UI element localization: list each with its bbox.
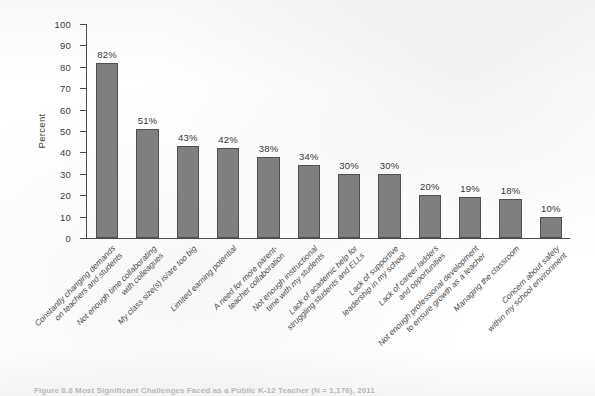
bar-value-label: 38% [259, 143, 279, 154]
y-axis-tick: 50 [80, 131, 86, 132]
y-axis-tick-label: 50 [60, 126, 71, 137]
bar-group[interactable]: 82% [96, 24, 118, 238]
y-axis-tick: 80 [80, 67, 86, 68]
y-axis-tick-label: 30 [60, 168, 71, 179]
bar[interactable] [96, 63, 118, 238]
category-label-line: Concern about safety [479, 244, 562, 327]
bar[interactable] [378, 174, 400, 238]
bar-group[interactable]: 19% [459, 24, 481, 238]
bar[interactable] [499, 199, 521, 238]
bar-group[interactable]: 18% [499, 24, 521, 238]
bar[interactable] [459, 197, 481, 238]
bar-value-label: 34% [299, 151, 319, 162]
bar-group[interactable]: 34% [298, 24, 320, 238]
bar-group[interactable]: 20% [419, 24, 441, 238]
bar-value-label: 30% [339, 160, 359, 171]
bar-value-label: 51% [138, 115, 158, 126]
y-axis-line [86, 24, 87, 238]
bar[interactable] [217, 148, 239, 238]
y-axis-tick-label: 60 [60, 104, 71, 115]
y-axis-tick-label: 20 [60, 190, 71, 201]
y-axis-tick: 30 [80, 174, 86, 175]
bar-value-label: 82% [97, 49, 117, 60]
bar-value-label: 43% [178, 132, 198, 143]
bar-group[interactable]: 38% [257, 24, 279, 238]
y-axis-tick-label: 40 [60, 147, 71, 158]
y-axis-title: Percent [36, 114, 47, 149]
bar-value-label: 30% [380, 160, 400, 171]
y-axis-tick: 0 [80, 238, 86, 239]
plot-area: Percent 0102030405060708090100 82%51%43%… [86, 24, 570, 238]
y-axis-tick-label: 80 [60, 61, 71, 72]
bar[interactable] [338, 174, 360, 238]
bar[interactable] [419, 195, 441, 238]
bar-group[interactable]: 10% [540, 24, 562, 238]
y-axis-tick-label: 0 [66, 233, 71, 244]
bar-group[interactable]: 51% [136, 24, 158, 238]
bar-value-label: 18% [501, 185, 521, 196]
y-axis-tick: 40 [80, 152, 86, 153]
y-axis-tick: 90 [80, 45, 86, 46]
figure-caption: Figure 8.8 Most Significant Challenges F… [34, 386, 375, 395]
y-axis-tick: 20 [80, 195, 86, 196]
y-axis-tick-label: 90 [60, 40, 71, 51]
x-axis-line [86, 238, 570, 239]
bar[interactable] [257, 157, 279, 238]
bar-value-label: 20% [420, 181, 440, 192]
bar[interactable] [540, 217, 562, 238]
y-axis-tick-label: 10 [60, 211, 71, 222]
bar-group[interactable]: 30% [338, 24, 360, 238]
y-axis-tick: 70 [80, 88, 86, 89]
bar-chart-figure: Percent 0102030405060708090100 82%51%43%… [0, 0, 595, 396]
bar-group[interactable]: 30% [378, 24, 400, 238]
bar-value-label: 42% [218, 134, 238, 145]
bar-group[interactable]: 42% [217, 24, 239, 238]
y-axis-tick-label: 100 [55, 19, 71, 30]
bar[interactable] [136, 129, 158, 238]
bar[interactable] [298, 165, 320, 238]
y-axis-tick: 10 [80, 217, 86, 218]
y-axis-tick: 100 [80, 24, 86, 25]
bar[interactable] [177, 146, 199, 238]
y-axis-tick-label: 70 [60, 83, 71, 94]
x-axis-category-label: Concern about safetywithin my school env… [479, 244, 569, 334]
y-axis-tick: 60 [80, 110, 86, 111]
bar-group[interactable]: 43% [177, 24, 199, 238]
bar-value-label: 10% [541, 203, 561, 214]
bar-value-label: 19% [460, 183, 480, 194]
